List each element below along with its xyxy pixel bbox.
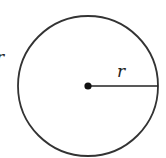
center-point [84, 82, 91, 89]
left-partial-label: r [0, 47, 5, 67]
radius-label: r [117, 61, 126, 81]
circle-diagram: r r [0, 0, 166, 158]
